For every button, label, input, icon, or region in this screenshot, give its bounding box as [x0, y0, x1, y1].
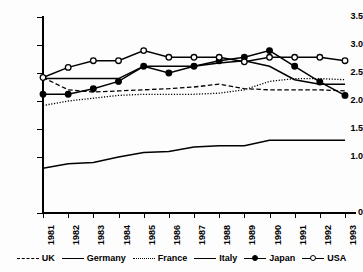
data-point: [191, 55, 197, 61]
x-tick-mark: [295, 214, 296, 218]
x-tick-mark: [244, 214, 245, 218]
data-point: [342, 93, 348, 99]
series-france: [43, 79, 345, 106]
data-point: [317, 55, 323, 61]
data-point: [242, 59, 248, 65]
legend-label: France: [158, 254, 188, 263]
x-tick-label: 1986: [173, 225, 182, 245]
series-italy: [43, 140, 345, 168]
x-tick-mark: [169, 214, 170, 218]
x-tick-label: 1991: [299, 225, 308, 245]
data-point: [267, 48, 273, 54]
x-tick-label: 1987: [198, 225, 207, 245]
legend-item-japan[interactable]: Japan: [244, 254, 295, 263]
x-tick-mark: [270, 214, 271, 218]
legend-swatch-icon: [17, 254, 39, 263]
data-point: [166, 55, 172, 61]
data-point: [317, 79, 323, 85]
legend-label: Japan: [269, 254, 295, 263]
series-line: [43, 140, 345, 168]
data-point: [141, 48, 147, 54]
data-point: [116, 58, 122, 64]
legend-item-france[interactable]: France: [133, 254, 188, 263]
legend-swatch-icon: [244, 254, 266, 263]
x-tick-label: 1985: [148, 225, 157, 245]
legend-swatch-icon: [302, 254, 324, 263]
x-tick-mark: [219, 214, 220, 218]
legend-label: Italy: [219, 254, 237, 263]
legend-label: USA: [327, 254, 346, 263]
data-point: [342, 58, 348, 64]
x-tick-mark: [144, 214, 145, 218]
legend-swatch-icon: [133, 254, 155, 263]
x-tick-mark: [320, 214, 321, 218]
x-tick-mark: [119, 214, 120, 218]
x-tick-label: 1984: [123, 225, 132, 245]
data-point: [141, 63, 147, 69]
data-point: [40, 91, 46, 97]
data-point: [65, 65, 71, 71]
x-tick-mark: [43, 214, 44, 218]
data-point: [216, 55, 222, 61]
x-tick-label: 1983: [97, 225, 106, 245]
x-tick-mark: [68, 214, 69, 218]
x-tick-label: 1982: [72, 225, 81, 245]
data-point: [292, 63, 298, 69]
legend-item-germany[interactable]: Germany: [62, 254, 126, 263]
series-line: [43, 79, 345, 106]
x-tick-label: 1993: [349, 225, 358, 245]
x-tick-mark: [194, 214, 195, 218]
x-tick-label: 1992: [324, 225, 333, 245]
x-tick-label: 1981: [47, 225, 56, 245]
data-point: [91, 58, 97, 64]
x-tick-label: 1988: [223, 225, 232, 245]
data-point: [40, 75, 46, 81]
x-tick-mark: [345, 214, 346, 218]
data-point: [191, 63, 197, 69]
chart-legend: UKGermanyFranceItalyJapanUSA: [0, 249, 363, 267]
legend-swatch-icon: [194, 254, 216, 263]
legend-label: Germany: [87, 254, 126, 263]
legend-item-usa[interactable]: USA: [302, 254, 346, 263]
x-tick-label: 1989: [248, 225, 257, 245]
series-layer: [43, 17, 355, 213]
legend-swatch-icon: [62, 254, 84, 263]
data-point: [267, 55, 273, 61]
data-point: [65, 91, 71, 97]
x-tick-mark: [93, 214, 94, 218]
data-point: [91, 86, 97, 92]
legend-label: UK: [42, 254, 55, 263]
plot-area: [43, 17, 355, 213]
data-point: [292, 55, 298, 61]
data-point: [116, 79, 122, 85]
x-tick-label: 1990: [274, 225, 283, 245]
legend-item-uk[interactable]: UK: [17, 254, 55, 263]
line-chart: 01.01.52.02.53.03.5 19811982198319841985…: [0, 0, 363, 272]
data-point: [166, 70, 172, 76]
legend-item-italy[interactable]: Italy: [194, 254, 237, 263]
